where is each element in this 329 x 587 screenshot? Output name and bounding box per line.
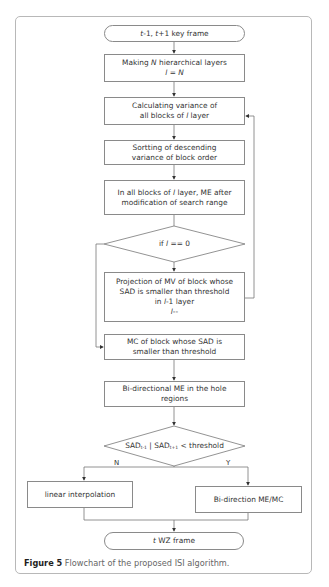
start-label: t-1, t+1 key frame [140, 29, 208, 39]
decision-sad-threshold: SADt-1 | SADt+1 < threshold [104, 441, 245, 450]
caption-text: Flowchart of the proposed ISI algorithm. [65, 558, 230, 568]
branch-yes-label: Y [226, 459, 230, 467]
branch-no-label: N [114, 459, 119, 467]
end-terminal: t WZ frame [104, 532, 244, 550]
step-me-search-range: In all blocks of l layer, ME after modif… [104, 180, 245, 215]
step-calc-variance: Calculating variance of all blocks of l … [104, 97, 245, 125]
step-bidir-memc: Bi-direction ME/MC [195, 486, 302, 513]
caption-label: Figure 5 [24, 558, 62, 568]
decision-layer-zero: if l == 0 [104, 239, 245, 248]
figure-caption: Figure 5 Flowchart of the proposed ISI a… [24, 558, 229, 568]
step-projection-mv: Projection of MV of block whose SAD is s… [104, 272, 245, 322]
step-mc-block: MC of block whose SAD is smaller than th… [104, 334, 245, 360]
step-bidir-me-hole: Bi-directional ME in the hole regions [104, 381, 245, 407]
start-terminal: t-1, t+1 key frame [104, 25, 245, 42]
step-sort-variance: Sortting of descending variance of block… [104, 140, 245, 165]
step-linear-interpolation: linear interpolation [27, 481, 133, 508]
step-make-hierarchy: Making N hierarchical layers l = N [104, 54, 245, 82]
